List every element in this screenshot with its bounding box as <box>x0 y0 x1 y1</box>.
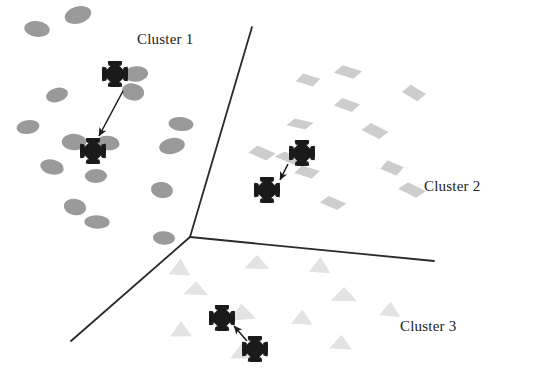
data-point-ellipse <box>158 136 186 157</box>
data-point-diamond <box>333 64 362 80</box>
data-point-triangle <box>169 258 191 276</box>
data-point-diamond <box>248 145 275 161</box>
data-point-diamond <box>295 72 321 88</box>
boundary-right <box>190 237 434 261</box>
data-point-ellipse <box>44 85 69 104</box>
centroid-marker <box>102 61 128 87</box>
data-point-diamond <box>380 159 404 176</box>
data-point-diamond <box>286 117 314 131</box>
centroid-marker <box>209 305 235 331</box>
data-point-triangle <box>379 301 402 317</box>
cluster-diagram: Cluster 1 Cluster 2 Cluster 3 <box>0 0 545 379</box>
data-point-ellipse <box>16 119 41 136</box>
boundary-upper <box>190 27 252 237</box>
data-point-diamond <box>397 181 426 198</box>
data-point-diamond <box>320 196 347 211</box>
cluster-3-label: Cluster 3 <box>400 318 456 335</box>
cluster-3-centroid-shift <box>234 326 247 341</box>
data-point-diamond <box>294 164 321 180</box>
data-point-ellipse <box>23 20 50 38</box>
data-point-diamond <box>361 122 389 139</box>
data-point-triangle <box>244 255 270 269</box>
data-point-triangle <box>183 281 208 296</box>
data-point-triangle <box>170 321 192 336</box>
cluster-2-label: Cluster 2 <box>424 178 480 195</box>
cluster-3-points-layer <box>169 255 402 359</box>
data-point-ellipse <box>63 3 94 27</box>
data-point-ellipse <box>168 116 194 132</box>
data-point-ellipse <box>120 82 145 103</box>
data-point-triangle <box>309 256 332 273</box>
centroid-shift-arrows-layer <box>99 91 288 341</box>
data-point-ellipse <box>85 169 108 183</box>
centroid-marker <box>254 177 280 203</box>
cluster-1-label: Cluster 1 <box>137 31 193 48</box>
data-point-diamond <box>401 84 426 102</box>
data-point-ellipse <box>150 181 174 200</box>
data-point-triangle <box>291 309 313 325</box>
data-point-triangle <box>331 286 358 301</box>
cluster-2-centroid-shift <box>280 164 288 180</box>
boundary-lower-left <box>71 237 190 341</box>
data-point-ellipse <box>63 197 88 216</box>
cluster-1-centroid-shift <box>99 91 123 136</box>
data-point-ellipse <box>39 157 65 176</box>
data-point-ellipse <box>84 215 110 229</box>
data-point-triangle <box>329 334 352 350</box>
data-point-diamond <box>334 97 361 112</box>
data-point-ellipse <box>152 230 175 245</box>
